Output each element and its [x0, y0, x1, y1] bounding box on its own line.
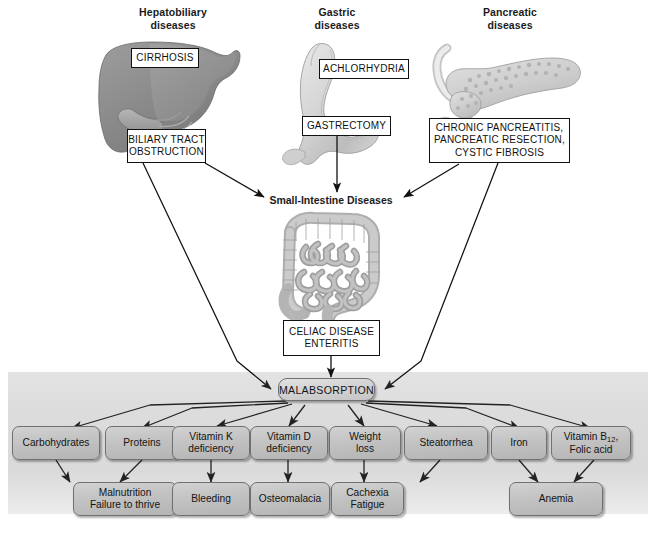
chip-vitamin-k-deficiency[interactable]: Vitamin K deficiency [172, 426, 250, 460]
label-biliary-tract-obstruction[interactable]: BILIARY TRACT OBSTRUCTION [127, 129, 206, 163]
chip-anemia[interactable]: Anemia [509, 482, 603, 516]
label-chronic-pancreatitis[interactable]: CHRONIC PANCREATITIS, PANCREATIC RESECTI… [429, 118, 570, 163]
chip-weight-loss[interactable]: Weight loss [329, 426, 401, 460]
section-header-hepatobiliary: Hepatobiliary diseases [93, 6, 253, 31]
diagram-canvas: Hepatobiliary diseases Gastric diseases … [0, 0, 657, 536]
chip-bleeding[interactable]: Bleeding [172, 482, 250, 516]
chip-vitamin-b12-folic-acid[interactable]: Vitamin B12,Folic acid [551, 426, 631, 460]
chip-vitamin-b12-text: Vitamin B12,Folic acid [564, 431, 619, 456]
chip-osteomalacia[interactable]: Osteomalacia [250, 482, 330, 516]
folic-acid-label: Folic acid [569, 444, 612, 455]
chip-iron[interactable]: Iron [491, 426, 547, 460]
chip-malnutrition-failure-to-thrive[interactable]: Malnutrition Failure to thrive [73, 482, 177, 516]
node-malabsorption[interactable]: MALABSORPTION [278, 378, 375, 401]
chip-steatorrhea[interactable]: Steatorrhea [404, 426, 488, 460]
vitamin-b-label: Vitamin B [564, 431, 607, 442]
label-achlorhydria[interactable]: ACHLORHYDRIA [319, 59, 409, 79]
vitamin-b12-comma: , [615, 431, 618, 442]
chip-vitamin-d-deficiency[interactable]: Vitamin D deficiency [250, 426, 328, 460]
label-cirrhosis[interactable]: CIRRHOSIS [131, 48, 199, 68]
chip-proteins[interactable]: Proteins [105, 426, 179, 460]
section-header-gastric: Gastric diseases [277, 6, 397, 31]
vitamin-b12-subscript: 12 [607, 435, 615, 444]
caption-small-intestine-diseases: Small-Intestine Diseases [266, 194, 396, 206]
chip-carbohydrates[interactable]: Carbohydrates [12, 426, 100, 460]
label-layer: Hepatobiliary diseases Gastric diseases … [0, 0, 657, 536]
chip-cachexia-fatigue[interactable]: Cachexia Fatigue [331, 482, 404, 516]
section-header-pancreatic: Pancreatic diseases [440, 6, 580, 31]
label-celiac-disease-enteritis[interactable]: CELIAC DISEASE ENTERITIS [283, 320, 380, 356]
label-gastrectomy[interactable]: GASTRECTOMY [302, 116, 391, 136]
